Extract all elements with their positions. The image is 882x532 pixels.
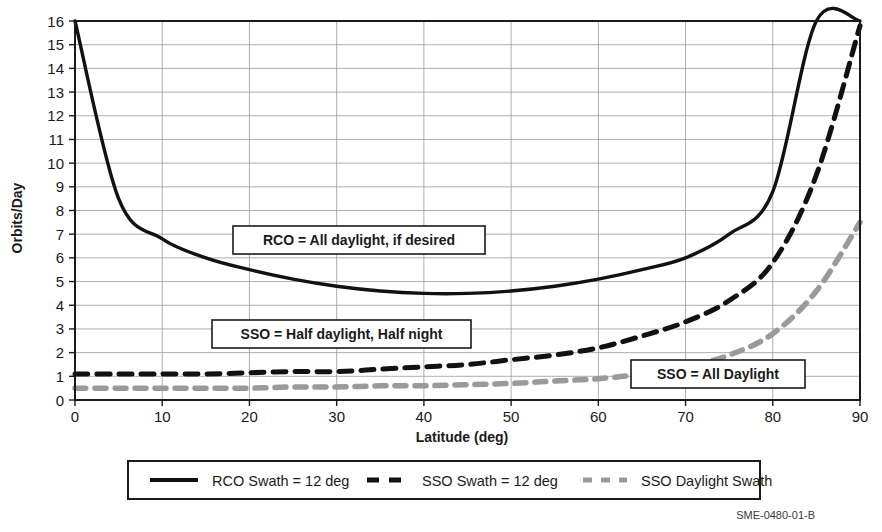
x-tick-label: 80 (764, 408, 781, 425)
legend-label-1: SSO Swath = 12 deg (422, 473, 558, 489)
y-tick-label: 13 (47, 84, 64, 101)
annotation-sso-half-label: SSO = Half daylight, Half night (241, 326, 443, 342)
annotation-sso-all-label: SSO = All Daylight (657, 366, 779, 382)
x-tick-label: 70 (677, 408, 694, 425)
annotation-rco-label: RCO = All daylight, if desired (263, 232, 455, 248)
legend-label-0: RCO Swath = 12 deg (212, 473, 349, 489)
x-axis-title: Latitude (deg) (416, 429, 509, 445)
figure-caption: SME-0480-01-B (736, 509, 815, 521)
chart-svg: 012345678910111213141516 010203040506070… (0, 0, 882, 532)
y-tick-label: 8 (56, 202, 64, 219)
y-tick-label: 14 (47, 60, 64, 77)
annotation-sso-half-daylight: SSO = Half daylight, Half night (212, 320, 471, 348)
y-tick-label: 11 (48, 131, 64, 148)
x-tick-label: 40 (416, 408, 433, 425)
y-tick-label: 10 (47, 155, 64, 172)
legend-label-2: SSO Daylight Swath (641, 473, 772, 489)
y-tick-label: 5 (56, 273, 64, 290)
y-tick-label: 0 (56, 392, 64, 409)
x-tick-label: 30 (328, 408, 345, 425)
y-tick-label: 3 (56, 320, 64, 337)
chart-figure: 012345678910111213141516 010203040506070… (0, 0, 882, 532)
annotation-sso-all-daylight: SSO = All Daylight (631, 360, 805, 388)
y-tick-label: 4 (56, 297, 64, 314)
legend-items: RCO Swath = 12 degSSO Swath = 12 degSSO … (150, 473, 772, 489)
y-tick-label: 15 (47, 36, 64, 53)
y-tick-label: 12 (47, 107, 64, 124)
y-tick-label: 1 (56, 368, 64, 385)
legend: RCO Swath = 12 degSSO Swath = 12 degSSO … (128, 461, 772, 499)
y-tick-label: 2 (56, 344, 64, 361)
x-tick-label: 10 (154, 408, 171, 425)
y-tick-label: 6 (56, 249, 64, 266)
x-tick-label: 20 (241, 408, 258, 425)
x-tick-label: 90 (852, 408, 869, 425)
y-tick-label: 16 (47, 13, 64, 30)
y-tick-label: 9 (56, 178, 64, 195)
annotation-rco-all-daylight: RCO = All daylight, if desired (233, 226, 485, 254)
x-tick-label: 50 (503, 408, 520, 425)
y-axis-title: Orbits/Day (9, 182, 25, 253)
x-tick-label: 0 (71, 408, 79, 425)
x-tick-label: 60 (590, 408, 607, 425)
y-tick-label: 7 (56, 226, 64, 243)
